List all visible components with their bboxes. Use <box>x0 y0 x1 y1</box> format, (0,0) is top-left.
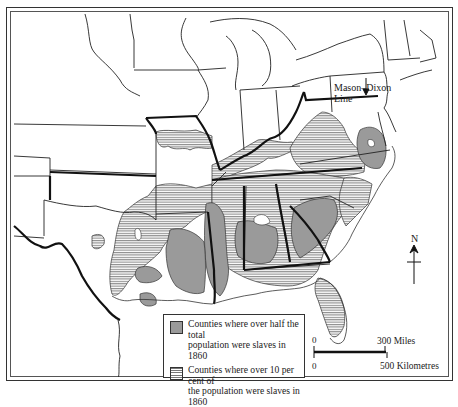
mason-dixon-label-line1: Mason–Dixon <box>334 83 391 93</box>
solid-grey-swatch-icon <box>170 321 183 334</box>
scale-km-label: 500 Kilometres <box>380 361 439 371</box>
legend-label-majority: Counties where over half the total popul… <box>188 319 300 361</box>
legend-label-ten-percent-line2: the population were slaves in 1860 <box>188 386 300 407</box>
legend-item-ten-percent: Counties where over 10 per cent of the p… <box>168 365 300 407</box>
scale-miles-label: 300 Miles <box>377 336 415 346</box>
legend-label-majority-line1: Counties where over half the total <box>188 319 300 340</box>
scale-km-zero: 0 <box>312 361 317 371</box>
north-arrow-icon <box>407 245 421 284</box>
scale-miles-zero: 0 <box>312 335 317 345</box>
legend-label-ten-percent: Counties where over 10 per cent of the p… <box>188 365 300 407</box>
legend-item-majority: Counties where over half the total popul… <box>168 319 300 361</box>
legend-label-ten-percent-line1: Counties where over 10 per cent of <box>188 365 300 386</box>
hatched-swatch-icon <box>170 367 183 380</box>
mason-dixon-label-line2: Line <box>334 94 352 104</box>
scale-bar <box>314 346 387 358</box>
map-legend: Counties where over half the total popul… <box>163 314 305 378</box>
legend-label-majority-line2: population were slaves in 1860 <box>188 340 300 361</box>
north-label: N <box>411 233 418 244</box>
